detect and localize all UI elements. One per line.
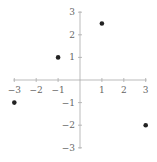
data-point: [143, 123, 148, 128]
x-tick-label: 1: [99, 85, 105, 95]
y-tick-label: 3: [69, 7, 75, 17]
y-tick-label: 1: [69, 52, 75, 62]
axes: [13, 11, 146, 149]
scatter-plot: −3−2−1123 321−1−2−3: [0, 0, 157, 162]
x-tick-label: 3: [143, 85, 149, 95]
data-point: [12, 100, 17, 105]
x-axis-ticks: −3−2−1123: [8, 78, 149, 95]
x-tick-label: −2: [30, 85, 43, 95]
y-tick-label: −2: [62, 120, 75, 130]
y-tick-label: 2: [69, 30, 75, 40]
x-tick-label: −1: [51, 85, 64, 95]
y-tick-label: −1: [62, 98, 75, 108]
y-tick-label: −3: [62, 143, 76, 153]
data-point: [100, 21, 105, 26]
data-point: [56, 55, 61, 60]
x-tick-label: 2: [121, 85, 127, 95]
x-tick-label: −3: [8, 85, 22, 95]
